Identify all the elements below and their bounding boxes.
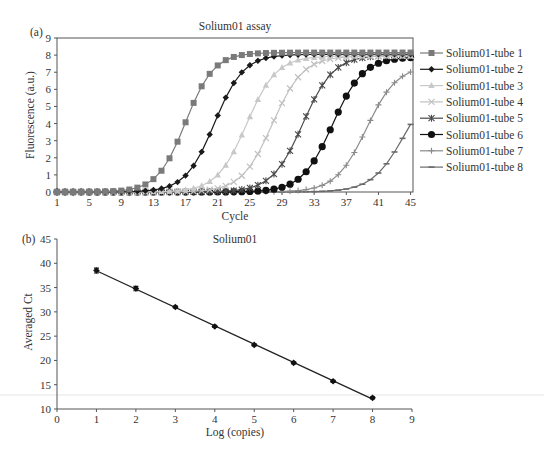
- x-tick-label: 25: [244, 196, 256, 208]
- legend-label: Solium01-tube 3: [446, 80, 523, 92]
- data-point: [239, 173, 245, 179]
- series-tube-7: [54, 69, 414, 195]
- y-tick-label: 25: [40, 330, 52, 342]
- data-point: [351, 80, 358, 87]
- series-line: [57, 58, 411, 192]
- data-point: [175, 139, 181, 145]
- series-line: [57, 53, 411, 192]
- data-point: [311, 61, 317, 67]
- data-point: [215, 112, 221, 118]
- data-point: [118, 188, 124, 194]
- series-line: [57, 55, 411, 192]
- data-point: [247, 51, 253, 57]
- y-tick-label: 15: [40, 379, 52, 391]
- chart-b-y-axis-title: Averaged Ct: [22, 292, 35, 350]
- data-point: [263, 50, 269, 56]
- data-point: [319, 143, 326, 150]
- data-point: [290, 360, 297, 367]
- legend-marker: [428, 131, 435, 138]
- data-point: [78, 189, 84, 195]
- data-point: [303, 168, 310, 175]
- data-point: [303, 113, 309, 120]
- data-point: [94, 189, 100, 195]
- x-tick-label: 8: [370, 413, 376, 425]
- y-tick-label: 35: [40, 282, 52, 294]
- data-point: [158, 168, 164, 174]
- figure-canvas: (a) Solium01 assay 0123456789 1591317212…: [0, 0, 544, 460]
- y-tick-label: 3: [46, 135, 52, 147]
- data-point: [54, 189, 60, 195]
- data-point: [294, 176, 301, 183]
- data-point: [287, 147, 293, 154]
- panel-label-b: (b): [22, 233, 36, 246]
- chart-a-y-ticks: 0123456789: [46, 32, 58, 198]
- x-tick-label: 6: [291, 413, 297, 425]
- data-point: [311, 96, 317, 103]
- legend-label: Solium01-tube 4: [446, 96, 523, 108]
- data-point: [247, 113, 253, 119]
- y-tick-label: 9: [46, 32, 52, 44]
- data-point: [206, 131, 212, 137]
- data-point: [359, 50, 365, 56]
- y-tick-label: 10: [40, 403, 52, 415]
- data-point: [239, 131, 245, 137]
- chart-b: (b) Solium01 1015202530354045 0123456789…: [22, 233, 415, 439]
- data-point: [279, 64, 285, 70]
- data-point: [207, 71, 213, 77]
- data-point: [287, 50, 293, 56]
- x-tick-label: 4: [212, 413, 218, 425]
- data-point: [392, 50, 398, 56]
- data-point: [375, 50, 381, 56]
- data-point: [319, 82, 325, 89]
- data-point: [263, 135, 269, 141]
- data-point: [278, 184, 285, 191]
- legend-marker: [428, 66, 434, 72]
- y-tick-label: 6: [46, 83, 52, 95]
- legend-item-tube-2: Solium01-tube 2: [420, 63, 523, 75]
- legend-item-tube-5: Solium01-tube 5: [420, 112, 523, 124]
- x-tick-label: 29: [277, 196, 289, 208]
- chart-b-title: Solium01: [213, 233, 258, 245]
- data-point: [343, 92, 350, 99]
- data-point: [110, 188, 116, 194]
- data-point: [367, 50, 373, 56]
- data-point: [270, 186, 277, 193]
- data-point: [126, 187, 132, 193]
- chart-b-y-ticks: 1015202530354045: [40, 233, 57, 415]
- y-tick-label: 20: [40, 354, 52, 366]
- data-point: [319, 50, 325, 56]
- data-point: [295, 131, 301, 138]
- x-tick-label: 3: [173, 413, 179, 425]
- data-point: [295, 74, 301, 80]
- data-point: [343, 50, 349, 56]
- data-point: [400, 50, 406, 56]
- data-point: [367, 64, 374, 71]
- data-point: [351, 50, 357, 56]
- data-point: [408, 50, 414, 56]
- data-point: [383, 50, 389, 56]
- data-point: [286, 181, 293, 188]
- data-point: [335, 108, 342, 115]
- data-point: [70, 189, 76, 195]
- y-tick-label: 45: [40, 233, 52, 245]
- data-point: [223, 94, 229, 100]
- x-tick-label: 1: [54, 196, 60, 208]
- y-tick-label: 2: [46, 152, 52, 164]
- data-point: [102, 189, 108, 195]
- series-line: [57, 56, 411, 192]
- x-tick-label: 0: [54, 413, 60, 425]
- data-point: [351, 149, 357, 155]
- data-point: [367, 117, 373, 123]
- data-point: [375, 60, 382, 67]
- data-point: [215, 62, 221, 68]
- data-point: [191, 100, 197, 106]
- chart-a-series: [53, 50, 414, 196]
- data-point: [231, 54, 237, 60]
- x-tick-label: 45: [405, 196, 417, 208]
- data-point: [311, 157, 318, 164]
- chart-a-legend: Solium01-tube 1Solium01-tube 2Solium01-t…: [420, 47, 523, 173]
- data-point: [327, 126, 334, 133]
- x-tick-label: 21: [212, 196, 223, 208]
- chart-b-marks: [93, 267, 376, 401]
- data-point: [183, 119, 189, 125]
